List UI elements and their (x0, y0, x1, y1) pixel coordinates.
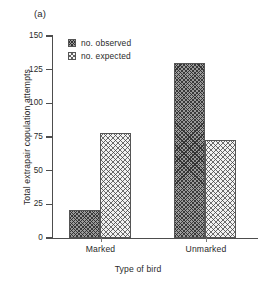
chart-legend: no. observedno. expected (68, 36, 131, 62)
legend-label: no. observed (81, 38, 131, 48)
y-tick-label: 125 (3, 65, 43, 74)
legend-item-observed: no. observed (68, 36, 131, 49)
plot-area (52, 36, 258, 238)
x-tick-label-marked: Marked (56, 244, 146, 254)
x-tick-mark (206, 238, 207, 242)
legend-label: no. expected (81, 51, 131, 61)
legend-item-expected: no. expected (68, 49, 131, 62)
x-axis-title: Type of bird (0, 264, 276, 274)
legend-swatch-expected-icon (68, 52, 76, 60)
bar-unmarked-observed (174, 63, 205, 238)
x-tick-label-unmarked: Unmarked (161, 244, 251, 254)
y-tick-label: 75 (3, 132, 43, 141)
panel-label: (a) (34, 8, 46, 19)
y-tick-label: 100 (3, 98, 43, 107)
bar-unmarked-expected (205, 140, 236, 238)
y-tick-label: 0 (3, 233, 43, 242)
bar-marked-expected (100, 133, 131, 238)
figure-panel-a: (a) Total extrapair copulation attempts … (0, 0, 276, 284)
legend-swatch-observed-icon (68, 39, 76, 47)
y-tick-label: 25 (3, 199, 43, 208)
bar-marked-observed (69, 210, 100, 238)
x-tick-mark (101, 238, 102, 242)
y-tick-label: 50 (3, 166, 43, 175)
y-tick-label: 150 (3, 31, 43, 40)
